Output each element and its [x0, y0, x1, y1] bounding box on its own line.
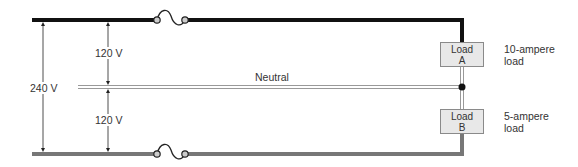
top-hot-wire [32, 18, 464, 43]
label-120v-upper: 120 V [94, 47, 123, 59]
load-b-description: 5-ampere load [504, 110, 549, 134]
load-a-box: Load A [440, 42, 484, 67]
load-a-desc-line2: load [504, 55, 555, 67]
load-b-line2: B [441, 122, 483, 133]
label-240v: 240 V [29, 82, 58, 94]
top-fuse-icon [154, 10, 188, 25]
neutral-label: Neutral [255, 71, 289, 83]
junction-dot [459, 84, 466, 91]
circuit-diagram [0, 0, 578, 167]
load-a-line2: A [441, 55, 483, 66]
bottom-hot-wire [32, 133, 464, 156]
load-b-box: Load B [440, 109, 484, 134]
load-b-line1: Load [441, 111, 483, 122]
bottom-fuse-icon [154, 144, 188, 159]
load-a-desc-line1: 10-ampere [504, 43, 555, 55]
load-a-description: 10-ampere load [504, 43, 555, 67]
load-b-desc-line1: 5-ampere [504, 110, 549, 122]
load-b-desc-line2: load [504, 122, 549, 134]
label-120v-lower: 120 V [94, 114, 123, 126]
load-a-line1: Load [441, 44, 483, 55]
